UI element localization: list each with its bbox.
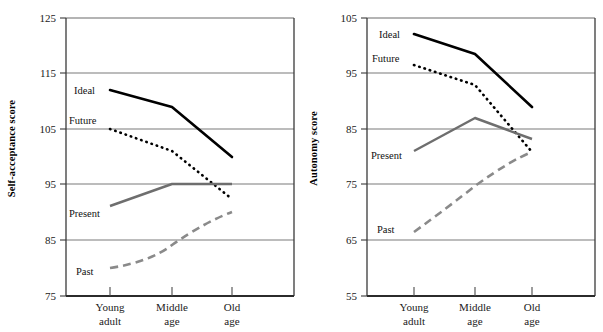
plot-area-left: 125 115 105 95 85 75 Young adult Middle …: [0, 0, 302, 332]
series-label-future-left: Future: [69, 115, 97, 126]
y-tick-label-left-105: 105: [40, 123, 57, 135]
x-tick-label-left-middle-1: Middle: [156, 301, 188, 313]
y-tick-label-right-55: 55: [346, 290, 358, 302]
x-tick-label-left-young-2: adult: [99, 315, 121, 327]
x-tick-label-left-old-1: Old: [224, 301, 241, 313]
y-tick-label-left-125: 125: [40, 12, 57, 24]
x-tick-label-left-middle-2: age: [164, 315, 179, 327]
y-tick-label-right-105: 105: [341, 12, 358, 24]
y-tick-label-left-75: 75: [45, 290, 57, 302]
series-label-ideal-left: Ideal: [74, 85, 95, 96]
chart-panel-self-acceptance: Self-acceptance score: [0, 0, 302, 332]
series-label-ideal-right: Ideal: [379, 29, 400, 40]
series-line-ideal-right: [414, 34, 532, 107]
x-tick-marks-right: [414, 287, 532, 296]
x-tick-label-right-old-2: age: [524, 315, 539, 327]
series-line-present-right: [414, 118, 532, 151]
series-line-future-right: [414, 65, 532, 152]
x-tick-label-right-young-1: Young: [400, 301, 429, 313]
x-tick-label-right-old-1: Old: [524, 301, 541, 313]
figure-two-panel-line-charts: Self-acceptance score: [0, 0, 603, 332]
x-tick-label-right-middle-1: Middle: [459, 301, 491, 313]
x-tick-label-left-old-2: age: [224, 315, 239, 327]
y-tick-label-right-65: 65: [346, 234, 358, 246]
series-line-present-left: [110, 184, 232, 206]
gridlines-left: [66, 18, 294, 240]
y-tick-label-left-95: 95: [45, 178, 57, 190]
y-tick-label-left-115: 115: [40, 67, 57, 79]
series-line-future-left: [110, 129, 232, 199]
gridlines-right: [367, 18, 595, 240]
series-label-past-left: Past: [76, 266, 94, 277]
series-line-ideal-left: [110, 90, 232, 157]
y-tick-label-left-85: 85: [45, 234, 57, 246]
x-tick-label-right-middle-2: age: [467, 315, 482, 327]
y-tick-label-right-85: 85: [346, 123, 358, 135]
y-tick-marks-right: [361, 18, 367, 296]
y-tick-label-right-95: 95: [346, 67, 358, 79]
series-label-present-left: Present: [69, 208, 100, 219]
series-label-past-right: Past: [377, 224, 395, 235]
y-tick-marks-left: [60, 18, 66, 296]
y-tick-label-right-75: 75: [346, 178, 358, 190]
chart-panel-autonomy: Autonomy score: [301, 0, 603, 332]
x-tick-label-left-young-1: Young: [96, 301, 125, 313]
series-label-present-right: Present: [371, 150, 402, 161]
series-label-future-right: Future: [372, 53, 400, 64]
plot-area-right: 105 95 85 75 65 55 Young adult Middle ag…: [301, 0, 603, 332]
x-tick-marks-left: [110, 287, 232, 296]
x-tick-label-right-young-2: adult: [403, 315, 425, 327]
series-line-past-right: [414, 152, 532, 232]
